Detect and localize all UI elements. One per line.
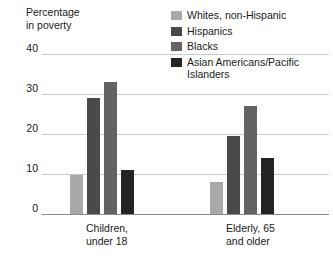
category-label-line2: under 18 bbox=[86, 235, 128, 248]
y-tick-label: 20 bbox=[12, 123, 38, 134]
legend-item-label: Hispanics bbox=[187, 25, 233, 38]
x-axis-category-label: Children,under 18 bbox=[86, 222, 128, 247]
bar bbox=[210, 182, 223, 214]
bar bbox=[104, 82, 117, 214]
legend-item: Whites, non-Hispanic bbox=[171, 9, 331, 22]
y-axis-title-line1: Percentage bbox=[26, 6, 80, 19]
legend-item-label: Whites, non-Hispanic bbox=[187, 9, 286, 22]
legend-item: Hispanics bbox=[171, 25, 331, 38]
legend-swatch-icon bbox=[171, 42, 182, 51]
bar bbox=[244, 106, 257, 214]
bar bbox=[261, 158, 274, 214]
poverty-bar-chart: Percentage in poverty Whites, non-Hispan… bbox=[0, 0, 333, 260]
x-axis-category-label: Elderly, 65and older bbox=[226, 222, 275, 247]
legend-item-label: Blacks bbox=[187, 40, 218, 53]
y-axis-title-line2: in poverty bbox=[26, 19, 80, 32]
y-tick-label: 30 bbox=[12, 83, 38, 94]
category-label-line1: Elderly, 65 bbox=[226, 222, 275, 235]
category-label-line1: Children, bbox=[86, 222, 128, 235]
y-tick-label: 0 bbox=[12, 203, 38, 214]
category-label-line2: and older bbox=[226, 235, 275, 248]
y-axis-ticks: 010203040 bbox=[12, 54, 38, 214]
axis-baseline bbox=[42, 214, 329, 215]
bar bbox=[87, 98, 100, 214]
bar-group-container bbox=[42, 54, 329, 214]
bar bbox=[70, 175, 83, 214]
y-axis-title: Percentage in poverty bbox=[26, 6, 80, 31]
legend-swatch-icon bbox=[171, 27, 182, 36]
y-tick-label: 10 bbox=[12, 163, 38, 174]
legend-swatch-icon bbox=[171, 11, 182, 20]
y-tick-label: 40 bbox=[12, 43, 38, 54]
bar bbox=[227, 136, 240, 214]
bar bbox=[121, 170, 134, 214]
legend-item: Blacks bbox=[171, 40, 331, 53]
